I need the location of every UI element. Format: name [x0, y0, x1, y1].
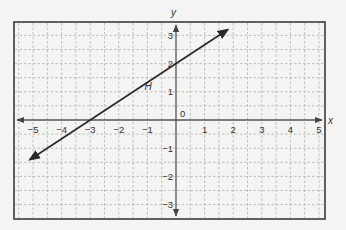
x-tick-label: 3: [259, 124, 264, 135]
x-tick-label: −5: [28, 124, 39, 135]
x-tick-label: 4: [288, 124, 293, 135]
coordinate-plane: x y −5−4−3−2−112345 −3−2−1123 0 H: [0, 0, 346, 230]
y-tick-label: −3: [162, 199, 173, 210]
x-tick-label: −3: [85, 124, 96, 135]
y-tick-label: 1: [168, 86, 173, 97]
x-tick-label: 5: [316, 124, 321, 135]
y-tick-label: 3: [168, 30, 173, 41]
y-tick-label: −2: [162, 171, 173, 182]
x-tick-labels: −5−4−3−2−112345: [28, 124, 322, 135]
x-tick-label: −4: [56, 124, 67, 135]
origin-label: 0: [180, 108, 185, 119]
x-axis-label: x: [327, 115, 334, 126]
x-tick-label: −1: [142, 124, 153, 135]
x-tick-label: 2: [231, 124, 236, 135]
y-axis-label: y: [170, 7, 177, 18]
x-tick-label: −2: [113, 124, 124, 135]
x-tick-label: 1: [202, 124, 207, 135]
y-tick-label: −1: [162, 143, 173, 154]
line-h-label: H: [145, 81, 153, 92]
